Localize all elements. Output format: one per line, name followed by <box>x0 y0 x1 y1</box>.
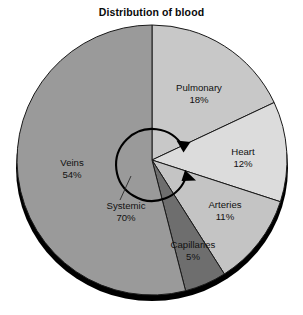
slice-value-heart: 12% <box>233 158 253 169</box>
slice-label-veins: Veins <box>60 157 84 168</box>
slice-label-capillaries: Capillaries <box>171 239 216 250</box>
slice-label-heart: Heart <box>231 146 255 157</box>
annotation-value-systemic: 70% <box>116 212 136 223</box>
pie-chart-svg: Pulmonary 18% Heart 12% Arteries 11% Cap… <box>0 0 303 315</box>
slice-value-veins: 54% <box>62 169 82 180</box>
slice-value-arteries: 11% <box>216 211 235 222</box>
slice-value-pulmonary: 18% <box>189 94 209 105</box>
pie-chart-figure: Distribution of blood Pulmonary 18% Hear… <box>0 0 303 315</box>
slice-label-pulmonary: Pulmonary <box>176 82 222 93</box>
slice-value-capillaries: 5% <box>186 251 200 262</box>
slice-label-arteries: Arteries <box>208 199 241 210</box>
annotation-label-systemic: Systemic <box>107 200 146 211</box>
